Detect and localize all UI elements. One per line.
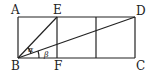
label-D: D — [136, 4, 146, 18]
label-F: F — [54, 59, 62, 73]
segment-BD — [18, 17, 135, 58]
label-C: C — [136, 59, 145, 73]
label-B: B — [11, 59, 20, 73]
angle-arc-beta — [38, 51, 39, 58]
label-E: E — [53, 3, 62, 17]
geometry-diagram: A E D B F C α β — [0, 0, 154, 81]
label-A: A — [10, 3, 20, 17]
segment-BE — [18, 17, 57, 58]
label-alpha: α — [28, 45, 34, 54]
label-beta: β — [43, 50, 49, 59]
